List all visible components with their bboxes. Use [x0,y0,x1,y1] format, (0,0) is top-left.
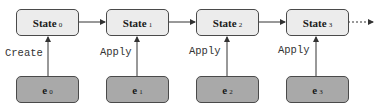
edge-label-apply-1: Apply [100,46,132,58]
state-label: State [303,17,327,29]
state-label: State [213,17,237,29]
event-subscript: 0 [49,88,53,96]
event-subscript: 1 [139,88,143,96]
event-box-2: e2 [196,76,259,103]
event-box-3: e3 [286,76,349,103]
state-subscript: 2 [239,21,243,29]
edge-label-apply-2: Apply [189,45,221,57]
event-label: e [132,84,137,96]
event-box-0: e0 [16,76,79,103]
state-box-3: State3 [286,9,349,36]
event-label: e [42,84,47,96]
event-subscript: 2 [229,88,233,96]
state-box-0: State0 [16,9,79,36]
state-box-2: State2 [196,9,259,36]
event-box-1: e1 [106,76,169,103]
edge-label-create: Create [5,47,43,59]
state-subscript: 3 [329,21,333,29]
state-subscript: 1 [149,21,153,29]
state-subscript: 0 [59,21,63,29]
edge-label-apply-3: Apply [278,44,310,56]
event-label: e [222,84,227,96]
state-box-1: State1 [106,9,169,36]
state-label: State [123,17,147,29]
event-subscript: 3 [319,88,323,96]
event-label: e [312,84,317,96]
state-label: State [33,17,57,29]
